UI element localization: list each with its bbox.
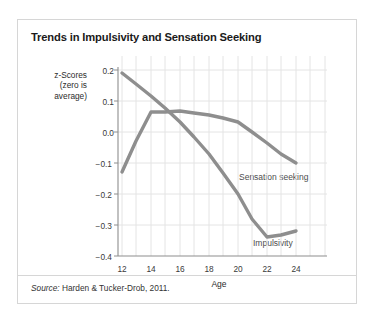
- source-note: Source: Harden & Tucker-Drob, 2011.: [31, 283, 170, 293]
- chart-svg: [31, 53, 345, 293]
- footer-divider: [18, 275, 356, 276]
- figure-card: Trends in Impulsivity and Sensation Seek…: [17, 19, 357, 304]
- page-title: Trends in Impulsivity and Sensation Seek…: [31, 31, 261, 43]
- source-label: Source:: [31, 283, 60, 293]
- grid-lines: [118, 56, 327, 256]
- chart-plot-area: z-Scores (zero is average) 0.2 0.1 0.0 −…: [31, 53, 345, 271]
- source-citation: Harden & Tucker-Drob, 2011.: [62, 283, 170, 293]
